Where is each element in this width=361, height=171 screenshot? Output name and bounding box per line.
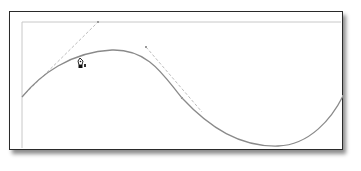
anchor-point[interactable] bbox=[145, 46, 147, 48]
bezier-canvas[interactable] bbox=[0, 0, 361, 171]
start-handle[interactable] bbox=[22, 22, 98, 97]
anchor-point[interactable] bbox=[97, 21, 99, 23]
anchor-point[interactable] bbox=[342, 95, 344, 97]
pen-tool-cursor-icon bbox=[78, 58, 86, 68]
tangent-handles[interactable] bbox=[22, 22, 202, 112]
mid-handle[interactable] bbox=[146, 47, 202, 112]
anchor-point[interactable] bbox=[181, 97, 183, 99]
anchor-points[interactable] bbox=[97, 21, 344, 99]
